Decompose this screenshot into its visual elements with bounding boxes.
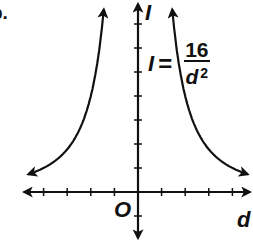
- part-label: b.: [0, 3, 8, 22]
- equation-label: I = 16 d2: [148, 40, 210, 87]
- equation-equals: =: [158, 50, 172, 78]
- equation-lhs: I: [148, 51, 154, 77]
- fraction-denominator: d2: [186, 62, 209, 87]
- inverse-square-graph: b. I d O I = 16 d2: [0, 0, 253, 241]
- y-axis-label: I: [145, 2, 151, 24]
- curve-right-branch: [172, 9, 248, 174]
- fraction-numerator: 16: [184, 40, 209, 62]
- origin-label: O: [114, 199, 131, 221]
- axes: [24, 4, 250, 238]
- curve-left-branch: [28, 9, 104, 174]
- equation-fraction: 16 d2: [184, 40, 209, 87]
- denominator-exponent: 2: [200, 65, 208, 81]
- denominator-variable: d: [186, 65, 199, 88]
- x-axis-label: d: [237, 209, 250, 231]
